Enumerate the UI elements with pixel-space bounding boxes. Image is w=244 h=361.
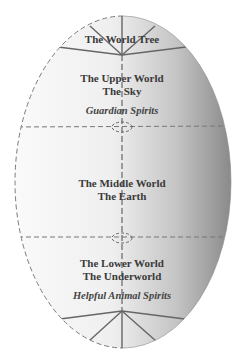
upper-world-title: The Upper World — [80, 72, 163, 84]
upper-world-spirits: Guardian Spirits — [86, 105, 159, 116]
world-tree-label: The World Tree — [85, 33, 159, 45]
middle-world-subtitle: The Earth — [98, 190, 147, 202]
lower-world-title: The Lower World — [80, 257, 164, 269]
lower-world-subtitle: The Underworld — [83, 270, 162, 282]
middle-world-title: The Middle World — [78, 177, 165, 189]
upper-world-subtitle: The Sky — [103, 85, 142, 97]
lower-world-spirits: Helpful Animal Spirits — [72, 290, 171, 301]
three-worlds-diagram: The World Tree The Upper World The Sky G… — [0, 0, 244, 361]
